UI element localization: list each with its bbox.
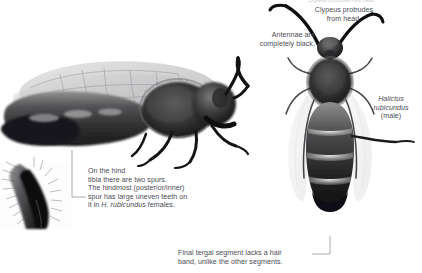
species-label: Halictus rubicundus(male) <box>362 95 420 121</box>
clypeus-caption: Clypeus protrudes from head. <box>306 6 382 23</box>
spur-caption: On the hind tibia there are two spurs. T… <box>88 167 187 210</box>
tergal-caption: Final tergal segment lacks a hair band, … <box>178 249 310 266</box>
spur-caption-species: H. rubicundus <box>101 201 145 209</box>
antennae-caption: Antennae are completely black. <box>243 31 315 48</box>
bee-identification-figure <box>0 0 422 273</box>
cut-off-top-caption: Clypeus protrudes from head. <box>282 0 402 5</box>
spur-caption-tail: females. <box>146 201 175 209</box>
species-name: Halictus rubicundus <box>373 95 408 112</box>
hind-tibia-spur-inset <box>0 157 72 229</box>
species-sex: (male) <box>381 112 401 120</box>
dorsal-abdomen <box>306 102 354 212</box>
